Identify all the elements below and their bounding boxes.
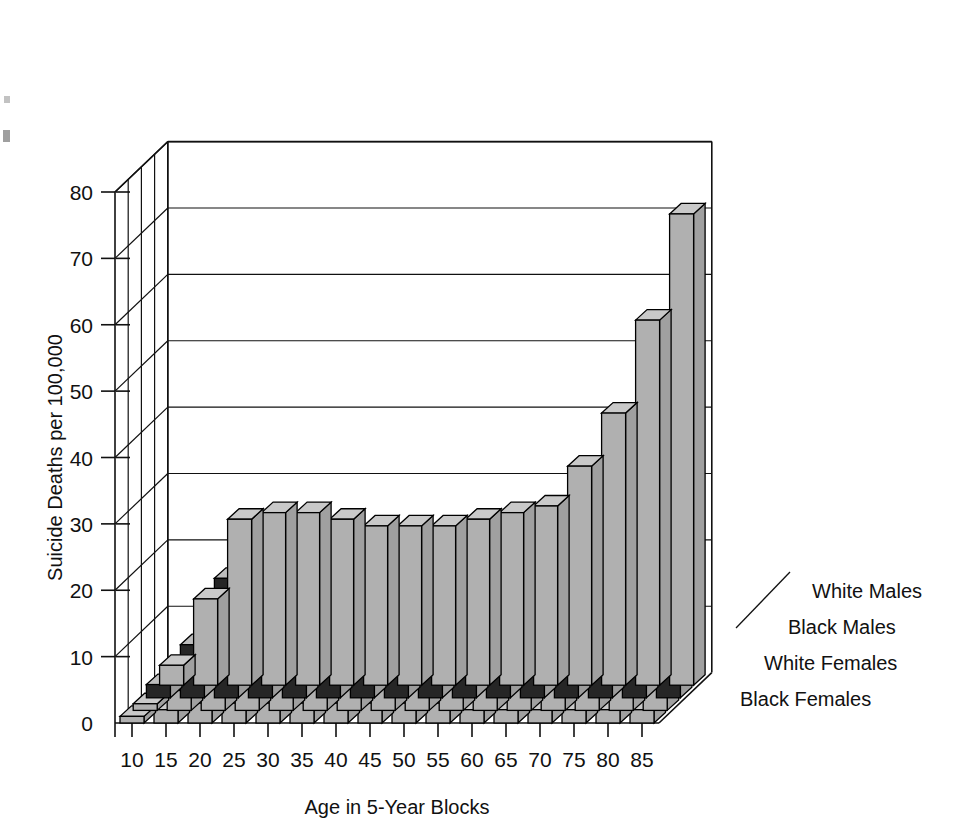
bar <box>432 515 468 685</box>
x-tick-label: 30 <box>256 748 279 771</box>
y-tick-label: 20 <box>70 579 93 602</box>
bar-side-face <box>218 588 230 685</box>
bar-side-face <box>388 515 400 685</box>
bar <box>330 509 366 685</box>
bar-front-face <box>398 526 422 685</box>
x-tick-label: 15 <box>154 748 177 771</box>
bar-side-face <box>694 203 706 685</box>
y-tick-label: 60 <box>70 314 93 337</box>
bar <box>398 515 434 685</box>
bar-front-face <box>596 710 620 723</box>
bar-side-face <box>320 502 332 685</box>
bar-front-face <box>194 599 218 685</box>
suicide-deaths-3d-bar-chart: 1015202530354045505560657075808501020304… <box>0 0 973 840</box>
bar <box>364 515 400 685</box>
bar-side-face <box>626 403 638 686</box>
legend-label-white-males: White Males <box>812 580 922 602</box>
y-axis-ticks: 01020304050607080 <box>70 181 93 735</box>
chart-root: 1015202530354045505560657075808501020304… <box>0 0 973 840</box>
legend-label-black-males: Black Males <box>788 616 896 638</box>
bar-front-face <box>432 526 456 685</box>
y-tick-label: 40 <box>70 447 93 470</box>
x-tick-label: 45 <box>358 748 381 771</box>
bar-front-face <box>364 526 388 685</box>
y-tick-label: 10 <box>70 646 93 669</box>
bar <box>194 588 230 685</box>
legend-label-white-females: White Females <box>764 652 897 674</box>
bar-front-face <box>602 413 626 685</box>
x-tick-label: 40 <box>324 748 347 771</box>
bar-side-face <box>286 502 298 685</box>
bar <box>534 495 570 685</box>
bar-row-white-males <box>160 203 706 685</box>
bar <box>228 509 264 685</box>
bar-front-face <box>670 214 694 685</box>
x-tick-label: 20 <box>188 748 211 771</box>
x-tick-label: 60 <box>460 748 483 771</box>
x-tick-label: 50 <box>392 748 415 771</box>
bar-front-face <box>460 710 484 723</box>
bar <box>466 509 502 685</box>
x-tick-label: 55 <box>426 748 449 771</box>
x-tick-label: 10 <box>120 748 143 771</box>
legend-leader-line <box>736 572 790 628</box>
y-tick-label: 0 <box>81 712 93 735</box>
bar-front-face <box>160 665 184 685</box>
y-tick-label: 50 <box>70 380 93 403</box>
page-edge-artifact <box>4 96 10 103</box>
bar-front-face <box>630 710 654 723</box>
bars-group <box>120 203 705 723</box>
bar-front-face <box>296 513 320 686</box>
legend: White MalesBlack MalesWhite FemalesBlack… <box>736 572 922 710</box>
x-axis-ticks: 10152025303540455055606570758085 <box>115 723 654 771</box>
x-tick-label: 25 <box>222 748 245 771</box>
bar-front-face <box>330 519 354 685</box>
bar-front-face <box>528 710 552 723</box>
y-tick-label: 80 <box>70 181 93 204</box>
y-axis-title: Suicide Deaths per 100,000 <box>44 334 66 581</box>
bar-front-face <box>534 506 558 685</box>
bar-side-face <box>252 509 264 685</box>
bar-front-face <box>494 710 518 723</box>
bar-front-face <box>466 519 490 685</box>
page-edge-artifact-2 <box>3 130 10 142</box>
bar-front-face <box>228 519 252 685</box>
bar-side-face <box>660 310 672 686</box>
bar-side-face <box>524 502 536 685</box>
x-tick-label: 80 <box>596 748 619 771</box>
legend-label-black-females: Black Females <box>740 688 871 710</box>
bar-side-face <box>558 495 570 685</box>
y-tick-label: 70 <box>70 247 93 270</box>
bar <box>500 502 535 685</box>
bar <box>262 502 298 685</box>
bar-front-face <box>562 710 586 723</box>
bar-side-face <box>456 515 468 685</box>
bar-front-face <box>636 320 660 685</box>
bar-front-face <box>500 513 524 686</box>
x-axis-title: Age in 5-Year Blocks <box>305 796 490 818</box>
bar-front-face <box>146 685 170 698</box>
bar-front-face <box>262 513 286 686</box>
bar <box>568 456 604 686</box>
bar-side-face <box>592 456 604 686</box>
y-tick-label: 30 <box>70 513 93 536</box>
bar <box>636 310 672 686</box>
bar-front-face <box>154 710 178 723</box>
x-tick-label: 85 <box>630 748 653 771</box>
bar <box>296 502 332 685</box>
bar-side-face <box>422 515 434 685</box>
bar <box>670 203 706 685</box>
bar-front-face <box>568 466 592 685</box>
x-tick-label: 35 <box>290 748 313 771</box>
bar-side-face <box>354 509 366 685</box>
bar-front-face <box>120 716 144 723</box>
bar-front-face <box>133 704 157 711</box>
x-tick-label: 70 <box>528 748 551 771</box>
x-tick-label: 75 <box>562 748 585 771</box>
x-tick-label: 65 <box>494 748 517 771</box>
bar <box>602 403 638 686</box>
bar-side-face <box>490 509 502 685</box>
